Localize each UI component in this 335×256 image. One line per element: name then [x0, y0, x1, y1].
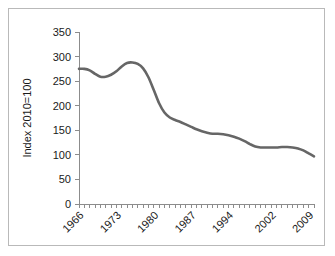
chart-figure: 050100150200250300350 196619731980198719… [8, 8, 325, 246]
y-tick-label: 200 [53, 100, 71, 112]
x-tick-label: 2002 [252, 209, 278, 235]
x-axis: 1966197319801987199420022009 [60, 204, 315, 235]
x-tick-label: 1980 [135, 209, 161, 235]
y-tick-label: 350 [53, 26, 71, 38]
x-tick-label: 1994 [210, 209, 236, 235]
y-tick-label: 0 [65, 198, 71, 210]
line-chart-plot: 050100150200250300350 196619731980198719… [9, 9, 324, 245]
y-tick-label: 150 [53, 124, 71, 136]
x-tick-label: 1966 [60, 209, 86, 235]
x-tick-label: 1987 [172, 209, 198, 235]
x-tick-label: 1973 [97, 209, 123, 235]
x-axis-minor-ticks [79, 204, 314, 208]
y-tick-label: 50 [59, 173, 71, 185]
y-tick-label: 100 [53, 149, 71, 161]
y-axis-title: Index 2010=100 [21, 78, 33, 157]
y-axis-ticks [75, 32, 79, 204]
y-tick-label: 250 [53, 75, 71, 87]
y-tick-label: 300 [53, 51, 71, 63]
y-axis: 050100150200250300350 [53, 26, 79, 210]
x-axis-tick-labels: 1966197319801987199420022009 [60, 209, 315, 235]
data-series-line [79, 62, 314, 156]
y-axis-tick-labels: 050100150200250300350 [53, 26, 71, 210]
x-tick-label: 2009 [290, 209, 316, 235]
